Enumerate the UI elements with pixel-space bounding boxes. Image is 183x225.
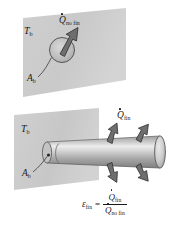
label-T-symbol-top: T: [24, 25, 30, 36]
label-A-subscript-top: b: [33, 78, 36, 84]
overdot-icon: [111, 189, 113, 191]
fin-effectiveness-equation: εfin = Qfin Qno fin: [82, 192, 127, 217]
overdot-icon: [119, 108, 121, 110]
bottom-panel-group: [14, 108, 165, 190]
label-base-area-no-fin: Ab: [27, 74, 36, 84]
label-A-subscript-bottom: b: [28, 173, 31, 179]
overdot-icon: [107, 203, 109, 205]
label-A-symbol-bottom: A: [22, 168, 28, 178]
fin-root-ellipse: [42, 142, 51, 163]
label-T-symbol-bottom: T: [21, 123, 27, 134]
equation-denominator: Qno fin: [103, 205, 127, 216]
label-heat-rate-fin: Qfin: [117, 111, 130, 121]
label-T-subscript-top: b: [30, 30, 33, 37]
label-heat-rate-no-fin-subscript: no fin: [66, 20, 80, 26]
qdot-symbol-fin: Q: [117, 111, 124, 121]
label-heat-rate-no-fin: Qno fin: [59, 16, 80, 26]
equation-numerator: Qfin: [107, 192, 124, 203]
base-area-marker: [47, 153, 50, 156]
overdot-icon: [61, 13, 63, 15]
equals-sign: =: [95, 199, 100, 209]
equation-fraction: Qfin Qno fin: [103, 192, 127, 217]
label-base-area-with-fin: Ab: [22, 169, 31, 179]
label-T-subscript-bottom: b: [27, 128, 30, 135]
epsilon-subscript: fin: [86, 204, 92, 210]
equation-lhs: εfin: [82, 199, 92, 209]
label-base-temperature-no-fin: Tb: [24, 26, 33, 36]
label-A-symbol-top: A: [27, 73, 33, 83]
qdot-symbol-no-fin: Q: [59, 16, 66, 26]
label-base-temperature-with-fin: Tb: [21, 124, 30, 134]
fin-end-cap: [155, 136, 166, 168]
figure-root: Tb Qno fin Ab Tb Qfin Ab εfin = Qfin Qno…: [0, 0, 183, 225]
label-heat-rate-fin-subscript: fin: [124, 115, 131, 121]
